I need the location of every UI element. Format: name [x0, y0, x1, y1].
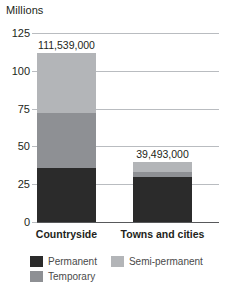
bar-segment-permanent [37, 168, 96, 222]
legend-row-1: Permanent Semi-permanent [30, 256, 226, 267]
legend-swatch-semi-permanent [111, 256, 124, 267]
legend-label-temporary: Temporary [48, 271, 95, 282]
bar-value-label-1: 39,493,000 [111, 148, 214, 160]
legend-label-semi-permanent: Semi-permanent [129, 256, 203, 267]
legend-item-temporary[interactable]: Temporary [30, 271, 95, 282]
gridline-125 [37, 33, 219, 34]
bar-segment-semi-permanent [133, 162, 192, 172]
legend-label-permanent: Permanent [48, 256, 97, 267]
y-tick-mark-25 [32, 184, 37, 185]
y-tick-label-0: 0 [0, 216, 30, 228]
y-tick-label-125: 125 [0, 27, 30, 39]
legend-swatch-temporary [30, 271, 43, 282]
bar-countryside[interactable] [37, 53, 96, 222]
bar-segment-semi-permanent [37, 53, 96, 113]
y-axis-title: Millions [6, 4, 43, 16]
legend-item-semi-permanent[interactable]: Semi-permanent [111, 256, 203, 267]
y-tick-label-50: 50 [0, 140, 30, 152]
y-tick-mark-100 [32, 71, 37, 72]
y-tick-label-100: 100 [0, 65, 30, 77]
bar-segment-permanent [133, 177, 192, 222]
plot-area [37, 33, 219, 222]
y-tick-label-25: 25 [0, 178, 30, 190]
chart-legend: Permanent Semi-permanent Temporary [30, 256, 226, 286]
y-tick-mark-125 [32, 33, 37, 34]
y-tick-mark-0 [32, 222, 37, 223]
bar-value-label-0: 111,539,000 [15, 39, 118, 51]
bar-towns-and-cities[interactable] [133, 162, 192, 222]
bar-segment-temporary [37, 113, 96, 167]
legend-item-permanent[interactable]: Permanent [30, 256, 97, 267]
legend-swatch-permanent [30, 256, 43, 267]
legend-row-2: Temporary [30, 271, 226, 282]
y-tick-label-75: 75 [0, 103, 30, 115]
category-label-0: Countryside [11, 228, 122, 240]
y-tick-mark-75 [32, 109, 37, 110]
y-tick-mark-50 [32, 146, 37, 147]
stacked-bar-chart: Millions Permanent Semi-permanent Tempor… [0, 0, 226, 298]
category-label-1: Towns and cities [107, 228, 218, 240]
gridline-0 [37, 222, 219, 223]
